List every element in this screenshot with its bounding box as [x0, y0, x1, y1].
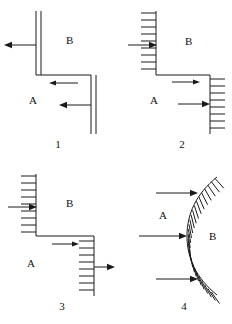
mid-block-arrow	[172, 79, 200, 84]
panel-1-label-a: A	[29, 95, 37, 106]
panel-1-number: 1	[46, 139, 70, 150]
panel-4-number: 4	[172, 301, 196, 312]
panel-3-label-a: A	[27, 258, 35, 269]
lower-block-arrow	[156, 276, 198, 282]
panel-4-drawing	[116, 162, 232, 324]
panel-3-label-b: B	[66, 198, 73, 209]
panel-2-drawing	[116, 0, 232, 162]
lower-block-arrow	[59, 102, 91, 108]
upper-block-arrow	[8, 204, 37, 210]
panel-4: A B 4	[116, 162, 232, 324]
panel-2-label-b: B	[185, 36, 192, 47]
lower-block-arrow	[178, 101, 210, 107]
panel-4-label-b: B	[209, 231, 216, 242]
upper-block-arrow	[156, 190, 198, 196]
panel-1: B A 1	[0, 0, 116, 162]
fault-hatch-lower	[79, 241, 94, 290]
mid-block-arrow	[49, 80, 78, 85]
fault-hatch-upper	[141, 13, 156, 69]
fault-hatch-upper	[21, 176, 36, 232]
mid-block-arrow	[52, 241, 79, 246]
panel-2-number: 2	[170, 139, 194, 150]
upper-block-arrow	[128, 42, 157, 48]
panel-2: B A 2	[116, 0, 232, 162]
panel-3-number: 3	[50, 301, 74, 312]
mid-block-arrow	[139, 233, 187, 239]
fault-hatch-lower	[210, 79, 225, 128]
panel-3: B A 3	[0, 162, 116, 324]
panel-4-label-a: A	[159, 210, 167, 221]
panel-3-drawing	[0, 162, 116, 324]
panel-1-label-b: B	[66, 35, 73, 46]
lower-block-arrow	[94, 264, 115, 270]
upper-block-arrow	[4, 42, 36, 48]
figure-canvas: B A 1	[0, 0, 232, 324]
panel-2-label-a: A	[150, 95, 158, 106]
